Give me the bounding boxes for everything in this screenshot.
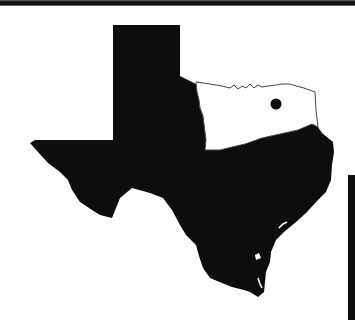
texas-oklahoma-map: [0, 0, 355, 320]
location-marker-dot: [271, 99, 282, 110]
texas-region: [30, 25, 334, 297]
right-panel-edge: [348, 175, 355, 320]
